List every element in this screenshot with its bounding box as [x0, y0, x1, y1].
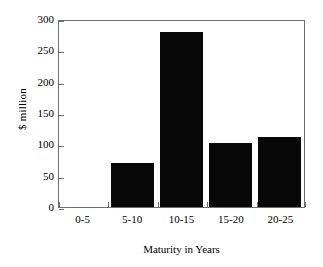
bar-cell [157, 21, 206, 207]
y-axis-tick-label: 150 [24, 108, 54, 119]
x-axis-tick-labels: 0-55-1010-1515-2020-25 [58, 213, 305, 226]
bars-container [59, 21, 304, 207]
x-axis-tick-mark [305, 202, 306, 207]
y-axis-tick-mark [59, 115, 64, 116]
bar-cell [59, 21, 108, 207]
y-axis-tick-mark [59, 178, 64, 179]
bar [209, 143, 252, 207]
y-axis-tick-label: 100 [24, 139, 54, 150]
x-axis-tick-mark [158, 202, 159, 207]
x-axis-tick-mark [108, 202, 109, 207]
y-axis-tick-mark [59, 209, 64, 210]
bar-chart-figure: $ million 050100150200250300 0-55-1010-1… [0, 0, 323, 267]
y-axis-tick-mark [59, 21, 64, 22]
x-axis-tick-label: 15-20 [206, 213, 255, 226]
y-axis-tick-mark [59, 52, 64, 53]
bar-cell [206, 21, 255, 207]
bar-cell [255, 21, 304, 207]
x-axis-tick-label: 5-10 [107, 213, 156, 226]
y-axis-tick-label: 200 [24, 77, 54, 88]
x-axis-tick-label: 0-5 [58, 213, 107, 226]
bar-cell [108, 21, 157, 207]
x-axis-title: Maturity in Years [58, 243, 305, 255]
x-axis-tick-label: 10-15 [157, 213, 206, 226]
plot-area [58, 20, 305, 208]
bar [160, 32, 203, 207]
y-axis-tick-mark [59, 84, 64, 85]
x-axis-tick-mark [59, 202, 60, 207]
y-axis-tick-labels: 050100150200250300 [24, 0, 54, 267]
bar [258, 137, 301, 207]
y-axis-tick-label: 0 [24, 202, 54, 213]
x-axis-tick-label: 20-25 [256, 213, 305, 226]
y-axis-tick-label: 300 [24, 14, 54, 25]
y-axis-tick-label: 50 [24, 171, 54, 182]
y-axis-tick-label: 250 [24, 45, 54, 56]
bar [111, 163, 154, 207]
x-axis-tick-mark [207, 202, 208, 207]
y-axis-tick-mark [59, 146, 64, 147]
x-axis-tick-mark [257, 202, 258, 207]
